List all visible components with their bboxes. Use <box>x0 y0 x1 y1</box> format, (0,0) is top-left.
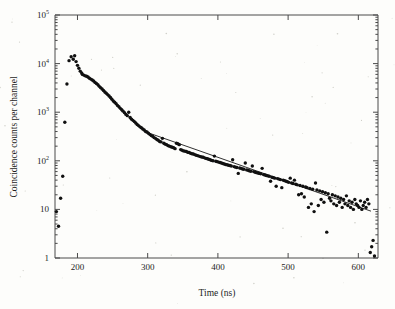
data-point <box>59 197 62 200</box>
data-point <box>63 121 66 124</box>
data-point <box>296 183 299 186</box>
data-point <box>317 204 320 207</box>
data-point <box>230 164 233 167</box>
data-point <box>325 230 328 233</box>
x-tick-label: 400 <box>211 262 225 272</box>
data-point <box>362 204 365 207</box>
data-point <box>326 192 329 195</box>
y-tick-label: 10 <box>40 204 50 214</box>
data-point <box>178 143 181 146</box>
y-tick-label: 105 <box>37 9 49 20</box>
data-point <box>300 192 303 195</box>
data-point <box>289 176 292 179</box>
data-point <box>237 172 240 175</box>
data-point <box>303 195 306 198</box>
data-point <box>244 161 247 164</box>
data-point <box>269 180 272 183</box>
y-axis-ticks <box>55 15 378 258</box>
data-point <box>242 168 245 171</box>
data-point <box>307 206 310 209</box>
data-point <box>340 206 343 209</box>
y-tick-label: 102 <box>37 155 49 166</box>
data-point <box>312 210 315 213</box>
data-point <box>76 64 79 67</box>
data-point <box>74 60 77 63</box>
data-point <box>274 185 277 188</box>
x-tick-label: 500 <box>281 262 295 272</box>
data-point <box>73 54 76 57</box>
data-point <box>371 239 374 242</box>
data-point <box>338 201 341 204</box>
tick-labels: 200300400500600110102103104105 <box>37 9 366 272</box>
data-point <box>126 114 129 117</box>
x-tick-label: 600 <box>352 262 366 272</box>
data-point <box>364 206 367 209</box>
data-point <box>310 202 313 205</box>
data-point <box>314 181 317 184</box>
data-point <box>353 198 356 201</box>
data-point <box>293 178 296 181</box>
data-point <box>345 194 348 197</box>
data-point <box>213 154 216 157</box>
data-point <box>311 188 314 191</box>
data-point <box>260 167 263 170</box>
data-point <box>72 58 75 61</box>
data-point <box>127 111 130 114</box>
data-point <box>346 204 349 207</box>
data-point <box>329 199 332 202</box>
data-point <box>280 186 283 189</box>
axes-frame <box>55 15 378 258</box>
data-points <box>55 54 376 258</box>
data-point <box>173 147 176 150</box>
data-point <box>235 166 238 169</box>
y-tick-label: 103 <box>37 106 49 117</box>
data-point <box>251 164 254 167</box>
data-point <box>322 201 325 204</box>
data-point <box>319 198 322 201</box>
data-point <box>291 182 294 185</box>
y-tick-label: 104 <box>37 58 49 69</box>
x-axis-title: Time (ns) <box>199 288 236 299</box>
data-point <box>335 204 338 207</box>
data-point <box>342 198 345 201</box>
data-point <box>161 137 164 140</box>
x-axis-ticks <box>77 15 358 258</box>
data-point <box>287 181 290 184</box>
data-point <box>360 208 363 211</box>
data-point <box>352 208 355 211</box>
data-point <box>370 245 373 248</box>
data-point <box>279 178 282 181</box>
data-point <box>367 202 370 205</box>
y-axis-title: Coincidence counts per channel <box>9 76 19 197</box>
data-point <box>67 59 70 62</box>
data-point <box>65 82 68 85</box>
data-point <box>349 206 352 209</box>
data-point <box>231 158 234 161</box>
data-point <box>61 175 64 178</box>
data-point <box>57 225 60 228</box>
figure-page: 200300400500600110102103104105 Time (ns)… <box>0 0 395 309</box>
data-point <box>373 254 376 257</box>
decay-curve-figure: 200300400500600110102103104105 Time (ns)… <box>0 0 395 309</box>
x-tick-label: 300 <box>141 262 155 272</box>
data-point <box>357 206 360 209</box>
plot-canvas: 200300400500600110102103104105 Time (ns)… <box>0 0 395 309</box>
data-point <box>350 201 353 204</box>
x-tick-label: 200 <box>71 262 85 272</box>
data-point <box>363 201 366 204</box>
data-point <box>366 198 369 201</box>
data-point <box>369 251 372 254</box>
data-point <box>359 199 362 202</box>
data-point <box>55 210 58 213</box>
y-tick-label: 1 <box>45 253 50 263</box>
